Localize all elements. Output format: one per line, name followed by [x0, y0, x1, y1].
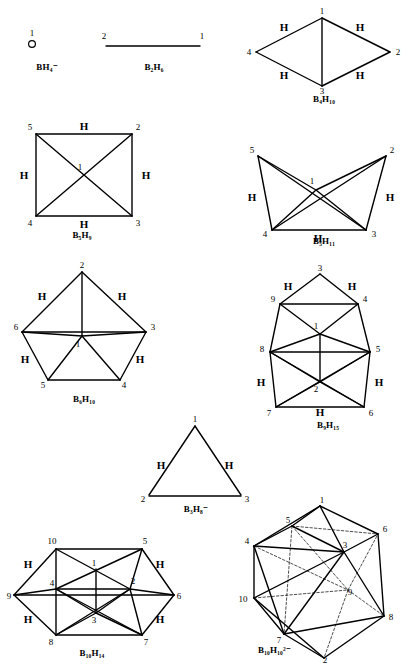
- h-bridge-label-bottom: H: [80, 218, 89, 230]
- bond-10-9: [14, 549, 56, 595]
- h-bridge-label-upper-right: H: [118, 290, 127, 302]
- figure-b6h10: 2 6 3 5 4 1 H H H H: [14, 260, 170, 388]
- bond-1-5: [292, 506, 320, 526]
- vertex-label-2: 2: [102, 31, 107, 41]
- h-bridge-label-lower-left: H: [257, 376, 266, 388]
- bond-9-8: [270, 304, 280, 352]
- figure-b2h6: 2 1: [98, 28, 210, 56]
- figure-b5h9: 5 2 4 3 1 H H H H: [14, 120, 164, 230]
- vertex-label-4: 4: [245, 536, 250, 546]
- caption-b6h10: B₆H₁₀: [46, 394, 122, 404]
- h-bridge-label-lower-left: H: [24, 613, 33, 625]
- figure-b5h11: 5 2 1 4 3 H H H: [240, 146, 400, 238]
- bond-4-7: [254, 546, 284, 634]
- vertex-label-2: 2: [323, 655, 328, 665]
- h-bridge-label-lower-right: H: [375, 376, 384, 388]
- b10h14-skeleton: 10 5 1 4 2 9 6 3 8 7 H H H H: [8, 533, 180, 645]
- bond-9-8-hidden: [348, 590, 384, 616]
- bond-4-3: [256, 52, 322, 86]
- bond-10-3: [254, 552, 344, 598]
- bond-6-3: [344, 534, 378, 552]
- vertex-label-1: 1: [76, 339, 81, 349]
- bond-4-3: [254, 546, 344, 552]
- vertex-label-5: 5: [28, 122, 33, 132]
- bond-5-6: [142, 549, 174, 595]
- bond-8-1: [270, 334, 320, 352]
- b10h10-skeleton: 1 5 6 4 3 10 9 8 7 2: [232, 498, 410, 663]
- bond-1-4: [256, 18, 322, 52]
- bond-5-6: [364, 352, 370, 407]
- vertex-label-5: 5: [376, 344, 381, 354]
- caption-b6h10-text: B₆H₁₀: [73, 394, 95, 404]
- caption-b5h9: B₅H₉: [46, 230, 118, 240]
- bond-1-3: [195, 426, 241, 495]
- bond-6-2: [130, 589, 174, 595]
- vertex-label-2: 2: [131, 576, 136, 586]
- figure-b10h10: 1 5 6 4 3 10 9 8 7 2: [232, 498, 410, 663]
- h-bridge-label-upper-left: H: [284, 280, 293, 292]
- vertex-label-1: 1: [320, 6, 325, 16]
- h-bridge-label-right: H: [142, 169, 151, 181]
- vertex-label-1: 1: [193, 414, 198, 424]
- vertex-label-2: 2: [80, 260, 85, 270]
- caption-b3h8-text: B₃H₈⁻: [184, 504, 208, 514]
- figure-bh4: 1: [18, 26, 58, 60]
- atom-vertex-1: [29, 41, 36, 48]
- vertex-label-5: 5: [250, 145, 255, 155]
- h-bridge-label-upper-right: H: [348, 280, 357, 292]
- bond-5-7: [276, 352, 370, 407]
- bond-5-3: [292, 526, 344, 552]
- h-bridge-label-top-left: H: [280, 21, 289, 33]
- bond-4-5: [254, 526, 292, 546]
- b5h11-skeleton: 5 2 1 4 3 H H H: [240, 146, 400, 238]
- h-bridge-label-left: H: [157, 459, 166, 471]
- vertex-label-8: 8: [389, 612, 394, 622]
- bond-4-5: [358, 304, 370, 352]
- vertex-label-3: 3: [136, 218, 141, 228]
- caption-b10h10-text: B₁₀H₁₀²⁻: [258, 645, 291, 655]
- caption-b10h14: B₁₀H₁₄: [52, 648, 132, 658]
- h-bridge-label-right: H: [225, 459, 234, 471]
- vertex-label-4: 4: [263, 229, 268, 239]
- bh4-skeleton: 1: [18, 26, 58, 60]
- bond-2-7: [130, 589, 142, 635]
- caption-b5h11: B₅H₁₁: [288, 236, 360, 246]
- vertex-label-6: 6: [177, 591, 182, 601]
- bond-5-1: [320, 334, 370, 352]
- caption-b3h8: B₃H₈⁻: [160, 504, 232, 514]
- bond-2-6: [22, 272, 82, 332]
- borane-structures-page: { "page": { "title": "Borane cluster ske…: [0, 0, 410, 670]
- vertex-label-2: 2: [396, 47, 401, 57]
- bond-7-8: [284, 616, 384, 634]
- vertex-label-6: 6: [14, 322, 19, 332]
- h-bridge-label-left: H: [248, 191, 257, 203]
- vertex-label-1: 1: [78, 162, 83, 172]
- h-bridge-label-lower-left: H: [21, 353, 30, 365]
- vertex-label-4: 4: [122, 380, 127, 390]
- bond-1-4: [272, 190, 316, 230]
- vertex-label-10: 10: [48, 536, 58, 546]
- bond-4-1: [82, 336, 120, 380]
- vertex-label-2: 2: [390, 145, 395, 155]
- bond-10-2: [56, 549, 130, 589]
- vertex-label-6: 6: [383, 524, 388, 534]
- vertex-label-1: 1: [200, 31, 205, 41]
- bond-6-8: [378, 534, 384, 616]
- h-bridge-label-lower-right: H: [156, 613, 165, 625]
- b5h9-skeleton: 5 2 4 3 1 H H H H: [14, 120, 164, 230]
- bond-3-8: [344, 552, 384, 616]
- b9h15-skeleton: 3 9 4 1 8 5 2 7 6 H H H H H: [248, 264, 398, 416]
- caption-b4h10: B₄H₁₀: [290, 94, 358, 104]
- vertex-label-5: 5: [143, 536, 148, 546]
- vertex-label-4: 4: [28, 218, 33, 228]
- vertex-label-4: 4: [363, 294, 368, 304]
- vertex-label-2: 2: [136, 122, 141, 132]
- vertex-label-8: 8: [260, 344, 265, 354]
- vertex-label-7: 7: [277, 635, 282, 645]
- vertex-label-1: 1: [320, 495, 325, 505]
- vertex-label-9: 9: [271, 294, 276, 304]
- vertex-label-1: 1: [92, 558, 97, 568]
- bond-5-3: [258, 156, 366, 230]
- caption-b2h6: B₂H₆: [118, 62, 190, 72]
- bond-8-7: [270, 352, 276, 407]
